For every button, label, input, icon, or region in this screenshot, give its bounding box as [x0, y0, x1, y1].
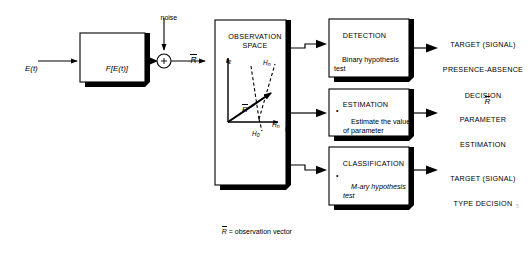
obs-to-detection-arrow [316, 40, 327, 48]
page-corner-mark: 5 [516, 203, 519, 209]
hn-right-subscript: n [277, 123, 280, 129]
estimation-bullet: • [336, 107, 338, 115]
transform-box-label: F[E(t)] [80, 55, 145, 83]
input-signal-label: E(t) [16, 55, 38, 83]
legend-rbar-symbol: R [222, 227, 227, 237]
input-signal-text: E(t) [25, 64, 38, 73]
figure-canvas: E(t) F[E(t)] noise R OBSERVATION SPACE r… [0, 0, 532, 258]
legend-block: R = observation vector r1, r2 = observat… [146, 197, 356, 258]
detection-body: Binary hypothesis test [334, 45, 408, 84]
detection-body-text: Binary hypothesis test [334, 55, 399, 74]
observation-space-vector-text: R [242, 105, 248, 114]
detection-title-text: DETECTION [343, 31, 386, 40]
estimation-body: Estimate the value of parameter [343, 107, 409, 146]
axis-x-subscript: 1 [287, 127, 290, 133]
detection-output-line1: TARGET (SIGNAL) [436, 41, 530, 49]
hypothesis-label-hn-upper: Hn [256, 51, 271, 74]
noise-label: noise [147, 6, 183, 31]
page-corner-mark-text: 5 [516, 203, 519, 209]
obs-to-estimation-arrow [316, 109, 327, 117]
estimation-output-label: PARAMETER ESTIMATION [436, 99, 530, 167]
hypothesis-label-hn-right: Hn [265, 113, 280, 136]
axis-y-subscript: 2 [228, 59, 231, 65]
observation-vector-label: R [181, 45, 197, 75]
legend-line1-text: = observation vector [227, 228, 292, 235]
legend-line-1: R = observation vector [146, 217, 356, 247]
detection-output-line2: PRESENCE-ABSENCE [436, 66, 530, 74]
classification-title-text: CLASSIFICATION [343, 159, 404, 168]
estimation-body-text: Estimate the value of parameter [343, 117, 410, 136]
classification-bullet: • [336, 172, 338, 180]
classification-output-label: TARGET (SIGNAL) TYPE DECISION [436, 158, 530, 226]
observation-vector-text: R [190, 55, 196, 65]
h0-subscript: 0 [257, 132, 260, 138]
obs-to-classification-arrow [316, 166, 327, 174]
observation-title-line2: SPACE [242, 41, 267, 50]
hn-upper-subscript: n [268, 61, 271, 67]
observation-space-vector-label: R [233, 96, 248, 124]
hypothesis-label-h0: H0 [245, 122, 260, 145]
axis-label-r2: r2 [219, 49, 231, 72]
noise-text: noise [161, 14, 178, 21]
transform-box-text: F[E(t)] [106, 64, 128, 73]
classification-output-line1: TARGET (SIGNAL) [436, 175, 530, 183]
estimation-output-line1: PARAMETER [436, 116, 530, 124]
estimation-output-line2: ESTIMATION [436, 141, 530, 149]
